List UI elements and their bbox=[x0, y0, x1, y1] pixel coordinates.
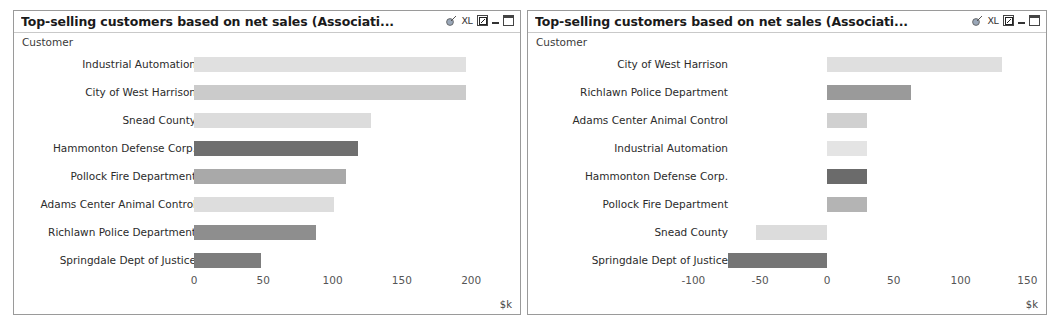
axis-tick-label: 50 bbox=[257, 274, 270, 286]
chart-bar[interactable] bbox=[827, 169, 867, 184]
excel-export-icon[interactable]: XL bbox=[986, 14, 1000, 27]
panel-title-icons: XL bbox=[444, 14, 514, 27]
chart-bar[interactable] bbox=[827, 85, 911, 100]
category-label: Hammonton Defense Corp. bbox=[18, 134, 196, 162]
export-icon[interactable] bbox=[970, 14, 983, 27]
chart-bar[interactable] bbox=[756, 225, 827, 240]
chart-bar[interactable] bbox=[827, 197, 867, 212]
category-label: City of West Harrison bbox=[18, 78, 196, 106]
chart-bar[interactable] bbox=[194, 141, 358, 156]
axis-unit-label: $k bbox=[1026, 299, 1038, 310]
chart-panel-right: Top-selling customers based on net sales… bbox=[527, 10, 1047, 315]
restore-icon[interactable] bbox=[477, 15, 488, 26]
chart-row: City of West Harrison bbox=[14, 78, 520, 106]
chart-bar[interactable] bbox=[194, 197, 334, 212]
chart-bar[interactable] bbox=[194, 57, 466, 72]
category-label: Richlawn Police Department bbox=[532, 78, 728, 106]
category-label: Adams Center Animal Control bbox=[18, 190, 196, 218]
chart-bar[interactable] bbox=[194, 253, 261, 268]
axis-tick-label: 150 bbox=[1017, 274, 1037, 286]
chart-bar[interactable] bbox=[827, 113, 867, 128]
restore-icon[interactable] bbox=[1003, 15, 1014, 26]
category-label: Pollock Fire Department bbox=[532, 190, 728, 218]
chart-panel-left: Top-selling customers based on net sales… bbox=[13, 10, 521, 315]
excel-export-icon[interactable]: XL bbox=[460, 14, 474, 27]
chart-bar[interactable] bbox=[827, 57, 1002, 72]
screen: Top-selling customers based on net sales… bbox=[0, 0, 1053, 333]
chart-bar[interactable] bbox=[194, 113, 371, 128]
axis-tick-label: -100 bbox=[681, 274, 705, 286]
axis-tick-label: 100 bbox=[951, 274, 971, 286]
chart-bar[interactable] bbox=[194, 225, 316, 240]
chart-bar[interactable] bbox=[194, 169, 346, 184]
maximize-icon[interactable] bbox=[503, 15, 514, 26]
axis-tick-label: 200 bbox=[461, 274, 481, 286]
chart-plot-left: Industrial AutomationCity of West Harris… bbox=[14, 48, 520, 300]
chart-bar[interactable] bbox=[827, 141, 867, 156]
chart-bar[interactable] bbox=[194, 85, 466, 100]
maximize-icon[interactable] bbox=[1029, 15, 1040, 26]
chart-row: Adams Center Animal Control bbox=[14, 190, 520, 218]
chart-row: Pollock Fire Department bbox=[528, 190, 1046, 218]
category-label: Hammonton Defense Corp. bbox=[532, 162, 728, 190]
axis-unit-label: $k bbox=[500, 299, 512, 310]
axis-tick-label: 50 bbox=[887, 274, 900, 286]
chart-row: Industrial Automation bbox=[14, 50, 520, 78]
panel-title: Top-selling customers based on net sales… bbox=[535, 14, 908, 29]
panel-titlebar: Top-selling customers based on net sales… bbox=[14, 11, 520, 33]
chart-row: Hammonton Defense Corp. bbox=[14, 134, 520, 162]
chart-bar[interactable] bbox=[728, 253, 827, 268]
chart-row: Snead County bbox=[14, 106, 520, 134]
minimize-icon[interactable] bbox=[1017, 15, 1026, 26]
axis-tick-label: 0 bbox=[824, 274, 831, 286]
chart-plot-right: City of West HarrisonRichlawn Police Dep… bbox=[528, 48, 1046, 300]
chart-row: Hammonton Defense Corp. bbox=[528, 162, 1046, 190]
category-label: Snead County bbox=[532, 218, 728, 246]
category-label: Adams Center Animal Control bbox=[532, 106, 728, 134]
panel-title-icons: XL bbox=[970, 14, 1040, 27]
chart-row: Industrial Automation bbox=[528, 134, 1046, 162]
chart-row: Snead County bbox=[528, 218, 1046, 246]
category-label: Industrial Automation bbox=[532, 134, 728, 162]
dimension-label: Customer bbox=[528, 33, 1046, 48]
chart-axis-right: $k -100-50050100150 bbox=[528, 268, 1046, 314]
chart-row: Adams Center Animal Control bbox=[528, 106, 1046, 134]
category-label: City of West Harrison bbox=[532, 50, 728, 78]
minimize-icon[interactable] bbox=[491, 15, 500, 26]
category-label: Snead County bbox=[18, 106, 196, 134]
chart-row: Richlawn Police Department bbox=[14, 218, 520, 246]
chart-row: Richlawn Police Department bbox=[528, 78, 1046, 106]
category-label: Industrial Automation bbox=[18, 50, 196, 78]
export-icon[interactable] bbox=[444, 14, 457, 27]
chart-row: City of West Harrison bbox=[528, 50, 1046, 78]
panel-title: Top-selling customers based on net sales… bbox=[21, 14, 394, 29]
category-label: Pollock Fire Department bbox=[18, 162, 196, 190]
dimension-label: Customer bbox=[14, 33, 520, 48]
axis-tick-label: 150 bbox=[392, 274, 412, 286]
chart-axis-left: $k 050100150200 bbox=[14, 268, 520, 314]
chart-row: Pollock Fire Department bbox=[14, 162, 520, 190]
axis-tick-label: -50 bbox=[752, 274, 769, 286]
axis-tick-label: 0 bbox=[191, 274, 198, 286]
panel-titlebar: Top-selling customers based on net sales… bbox=[528, 11, 1046, 33]
axis-tick-label: 100 bbox=[323, 274, 343, 286]
category-label: Richlawn Police Department bbox=[18, 218, 196, 246]
